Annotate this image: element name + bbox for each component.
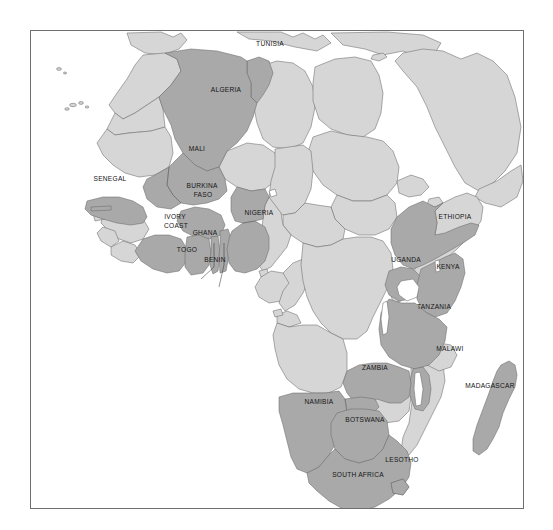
country-label-zambia: ZAMBIA bbox=[362, 364, 388, 371]
region-sudan bbox=[307, 131, 399, 201]
country-label-tanzania: TANZANIA bbox=[417, 303, 451, 310]
map-root: TUNISIA ALGERIA MALI SENEGAL BURKINA FAS… bbox=[0, 0, 553, 530]
country-label-malawi: MALAWI bbox=[436, 345, 463, 352]
country-label-benin: BENIN bbox=[204, 256, 225, 263]
country-shape-ivory-coast[interactable] bbox=[135, 235, 187, 273]
country-label-tunisia: TUNISIA bbox=[256, 40, 284, 47]
country-label-kenya: KENYA bbox=[436, 263, 459, 270]
region-eritrea bbox=[397, 175, 429, 197]
region-mauritania bbox=[97, 127, 173, 177]
country-label-ghana: GHANA bbox=[193, 229, 218, 236]
country-label-senegal: SENEGAL bbox=[94, 175, 127, 182]
map-frame: TUNISIA ALGERIA MALI SENEGAL BURKINA FAS… bbox=[30, 30, 524, 509]
country-label-burkina-line2: FASO bbox=[194, 191, 213, 198]
region-egypt bbox=[313, 57, 383, 137]
country-shape-madagascar[interactable] bbox=[473, 361, 517, 455]
country-label-mali: MALI bbox=[189, 145, 205, 152]
country-label-ethiopia: ETHIOPIA bbox=[439, 213, 472, 220]
region-canary-islands bbox=[57, 68, 89, 111]
country-label-lesotho: LESOTHO bbox=[385, 456, 418, 463]
country-label-togo: TOGO bbox=[177, 246, 197, 253]
country-label-algeria: ALGERIA bbox=[211, 86, 242, 93]
country-shape-nigeria[interactable] bbox=[227, 187, 269, 273]
country-label-nigeria: NIGERIA bbox=[245, 209, 274, 216]
region-italy-balkans bbox=[237, 32, 331, 51]
country-label-ivory-line1: IVORY bbox=[164, 213, 186, 220]
region-dr-congo bbox=[301, 237, 393, 339]
country-label-ivory-line2: COAST bbox=[164, 222, 188, 229]
region-middle-east bbox=[395, 49, 521, 191]
africa-map-svg: TUNISIA ALGERIA MALI SENEGAL BURKINA FAS… bbox=[31, 31, 523, 508]
country-label-madagascar: MADAGASCAR bbox=[465, 382, 514, 389]
country-label-south-africa: SOUTH AFRICA bbox=[332, 471, 384, 478]
country-label-uganda: UGANDA bbox=[391, 256, 421, 263]
country-label-namibia: NAMIBIA bbox=[305, 398, 334, 405]
country-label-botswana: BOTSWANA bbox=[345, 416, 385, 423]
country-shape-senegal[interactable] bbox=[85, 197, 147, 225]
country-label-burkina-line1: BURKINA bbox=[187, 182, 218, 189]
